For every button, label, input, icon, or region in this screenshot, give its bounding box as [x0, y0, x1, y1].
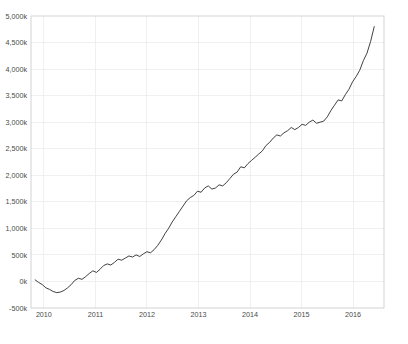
y-tick-label: 4,000k	[5, 65, 27, 74]
y-tick-label: -500k	[9, 304, 27, 313]
x-tick-label: 2014	[242, 310, 258, 319]
y-tick-label: 0k	[19, 277, 27, 286]
x-tick-label: 2012	[139, 310, 155, 319]
y-tick-label: 1,500k	[5, 197, 27, 206]
chart-container: 5,000k4,500k4,000k3,500k3,000k2,500k2,00…	[0, 0, 408, 344]
chart-background	[0, 0, 408, 344]
x-tick-label: 2013	[190, 310, 206, 319]
x-tick-label: 2015	[294, 310, 310, 319]
y-tick-label: 500k	[11, 251, 27, 260]
y-tick-label: 2,000k	[5, 171, 27, 180]
y-tick-label: 1,000k	[5, 224, 27, 233]
y-tick-label: 4,500k	[5, 38, 27, 47]
x-tick-label: 2011	[88, 310, 103, 319]
y-tick-label: 2,500k	[5, 144, 27, 153]
x-tick-label: 2016	[345, 310, 361, 319]
y-tick-label: 3,000k	[5, 118, 27, 127]
line-chart: 5,000k4,500k4,000k3,500k3,000k2,500k2,00…	[0, 0, 408, 344]
y-tick-label: 5,000k	[5, 12, 27, 21]
x-tick-label: 2010	[36, 310, 52, 319]
y-tick-label: 3,500k	[5, 91, 27, 100]
